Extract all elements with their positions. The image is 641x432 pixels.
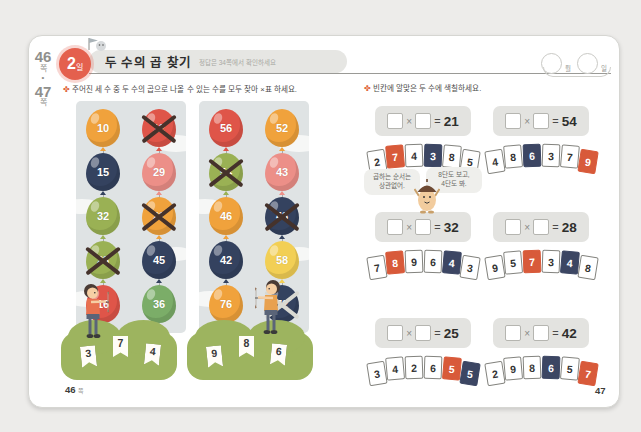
number-card-4[interactable]: 4	[484, 149, 505, 175]
page-number-left-value: 46	[65, 384, 76, 395]
multiply-sign: ×	[406, 328, 412, 339]
balloon-48[interactable]: 48	[265, 197, 299, 235]
balloon-panel-2: 56525443464842587672	[199, 101, 309, 333]
balloon-46[interactable]: 46	[209, 197, 243, 235]
number-card-7[interactable]: 7	[522, 250, 541, 274]
page-number-left: 46쪽	[65, 384, 84, 395]
number-card-7[interactable]: 7	[577, 361, 598, 387]
balloon-36[interactable]: 36	[142, 285, 176, 323]
number-card-9[interactable]: 9	[484, 255, 505, 281]
multiply-sign: ×	[406, 222, 412, 233]
lesson-subtitle: 정답은 34쪽에서 확인하세요	[199, 57, 276, 67]
multiply-sign: ×	[524, 116, 530, 127]
number-card-3[interactable]: 3	[366, 361, 387, 387]
workbook-spread: 46 쪽 • 47 쪽 2 일 두 수의 곱 찾기 정답은 34쪽에서 확인하세…	[0, 0, 641, 432]
balloon-56[interactable]: 56	[209, 109, 243, 147]
flag-character-icon	[85, 36, 109, 53]
balloon-52[interactable]: 52	[265, 109, 299, 147]
balloon-12[interactable]: 12	[142, 109, 176, 147]
answer-blank-2[interactable]	[533, 219, 549, 235]
answer-blank-2[interactable]	[415, 219, 431, 235]
number-card-4[interactable]: 4	[404, 144, 423, 168]
balloon-10[interactable]: 10	[86, 109, 120, 147]
answer-blank-1[interactable]	[387, 219, 403, 235]
number-card-6[interactable]: 6	[522, 144, 541, 168]
number-card-7[interactable]: 7	[366, 255, 387, 281]
answer-blank-2[interactable]	[415, 325, 431, 341]
balloon-number: 56	[220, 122, 232, 134]
equation-box: ×=54	[493, 106, 589, 136]
page-tab-separator: •	[42, 74, 45, 82]
equals-sign: =	[552, 115, 558, 127]
number-card-8[interactable]: 8	[522, 356, 541, 380]
number-card-8[interactable]: 8	[577, 255, 598, 281]
balloon-42[interactable]: 42	[209, 241, 243, 279]
month-input-circle[interactable]	[541, 53, 562, 74]
number-card-7[interactable]: 7	[559, 144, 579, 168]
number-card-3[interactable]: 3	[423, 144, 442, 168]
answer-blank-2[interactable]	[533, 113, 549, 129]
number-card-9[interactable]: 9	[577, 149, 598, 175]
page-number-left-suffix: 쪽	[78, 388, 84, 394]
number-card-9[interactable]: 9	[404, 250, 423, 274]
problem-25: ×=25342655	[364, 318, 482, 379]
answer-blank-1[interactable]	[505, 113, 521, 129]
number-card-9[interactable]: 9	[503, 356, 523, 380]
number-card-6[interactable]: 6	[423, 356, 442, 380]
title-bar: 두 수의 곱 찾기 정답은 34쪽에서 확인하세요	[89, 50, 347, 73]
balloon-21[interactable]: 21	[142, 197, 176, 235]
balloon-32[interactable]: 32	[86, 197, 120, 235]
balloon-15[interactable]: 15	[86, 153, 120, 191]
right-instruction: ✤빈칸에 알맞은 두 수에 색칠하세요.	[364, 82, 614, 93]
number-card-8[interactable]: 8	[503, 144, 523, 168]
number-card-4[interactable]: 4	[441, 250, 461, 274]
equals-sign: =	[434, 115, 440, 127]
header-rule	[89, 73, 611, 74]
equals-sign: =	[552, 327, 558, 339]
answer-blank-2[interactable]	[415, 113, 431, 129]
number-card-4[interactable]: 4	[385, 356, 405, 380]
problems-grid: ×=21274385×=54486379×=32789643×=28957348…	[364, 106, 616, 392]
equation-result: 28	[562, 220, 577, 235]
answer-blank-1[interactable]	[387, 325, 403, 341]
page-tab-number-top: 46	[35, 49, 52, 65]
number-card-5[interactable]: 5	[559, 356, 579, 380]
number-card-5[interactable]: 5	[441, 356, 461, 380]
balloon-54[interactable]: 54	[209, 153, 243, 191]
number-card-3[interactable]: 3	[459, 255, 480, 281]
balloon-45[interactable]: 45	[142, 241, 176, 279]
balloon-76[interactable]: 76	[209, 285, 243, 323]
number-card-3[interactable]: 3	[541, 144, 560, 168]
number-card-7[interactable]: 7	[385, 144, 405, 168]
number-card-2[interactable]: 2	[404, 356, 423, 380]
number-card-6[interactable]: 6	[541, 356, 560, 380]
number-card-8[interactable]: 8	[385, 250, 405, 274]
given-number-flag-8: 8	[239, 336, 254, 357]
answer-blank-1[interactable]	[387, 113, 403, 129]
balloon-58[interactable]: 58	[265, 241, 299, 279]
left-instruction-text: 주어진 세 수 중 두 수의 곱으로 나올 수 있는 수를 모두 찾아 ×표 하…	[72, 85, 297, 94]
answer-blank-1[interactable]	[505, 219, 521, 235]
number-card-2[interactable]: 2	[484, 361, 505, 387]
balloon-grid-2: 56525443464842587672	[199, 101, 309, 333]
balloon-28[interactable]: 28	[86, 241, 120, 279]
balloon-29[interactable]: 29	[142, 153, 176, 191]
problem-32: ×=32789643	[364, 212, 482, 273]
answer-blank-2[interactable]	[533, 325, 549, 341]
acorn-helper-character	[414, 178, 440, 214]
day-input-circle[interactable]	[577, 53, 598, 74]
clover-bullet-icon: ✤	[63, 85, 70, 94]
equation-result: 42	[562, 326, 577, 341]
answer-blank-1[interactable]	[505, 325, 521, 341]
date-widget: 월 일	[541, 52, 613, 74]
month-label: 월	[565, 63, 571, 73]
balloon-43[interactable]: 43	[265, 153, 299, 191]
equation-result: 25	[444, 326, 459, 341]
number-card-5[interactable]: 5	[503, 250, 523, 274]
number-card-6[interactable]: 6	[423, 250, 442, 274]
number-card-3[interactable]: 3	[541, 250, 560, 274]
number-card-5[interactable]: 5	[459, 361, 480, 387]
number-card-4[interactable]: 4	[559, 250, 579, 274]
number-card-8[interactable]: 8	[441, 144, 461, 168]
x-mark	[142, 197, 176, 235]
